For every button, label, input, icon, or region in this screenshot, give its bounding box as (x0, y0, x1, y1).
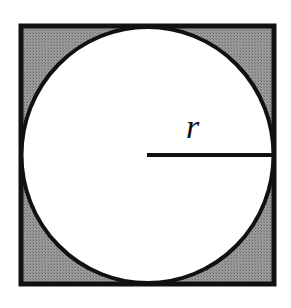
diagram-canvas: r (0, 0, 291, 308)
radius-label: r (186, 108, 200, 145)
